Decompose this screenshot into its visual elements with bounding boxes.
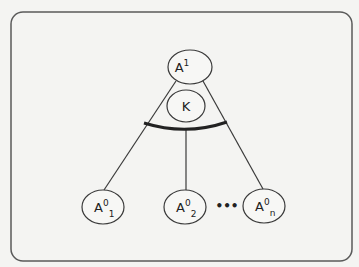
kernel-node: K bbox=[167, 90, 205, 122]
kernel-node-label: K bbox=[182, 99, 191, 114]
edge-root-child-1 bbox=[104, 81, 176, 190]
edge-root-child-n bbox=[203, 81, 263, 189]
ellipsis-dots: ••• bbox=[215, 199, 238, 213]
root-node: A1 bbox=[168, 50, 212, 84]
child-node-n: A0n bbox=[243, 189, 285, 223]
child-node-2: A02 bbox=[164, 190, 206, 224]
child-node-1: A01 bbox=[82, 190, 124, 224]
aggregation-arc bbox=[144, 122, 227, 129]
diagram-canvas: A1 K A01 A02 ••• A0n bbox=[0, 0, 359, 267]
